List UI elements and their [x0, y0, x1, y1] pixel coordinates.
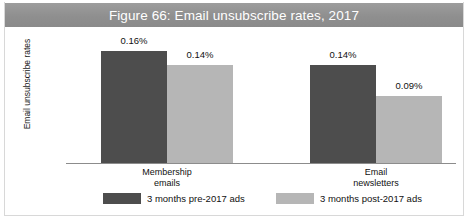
category-line-2: newsletters [310, 178, 442, 189]
bar-membership-pre [101, 51, 167, 163]
x-axis-category-membership-emails: Membership emails [101, 167, 233, 189]
chart-plot-area: Email unsubscribe rates 0.16% 0.14% Memb… [0, 27, 469, 187]
bar-newsletters-pre [310, 65, 376, 163]
figure-border-bottom [4, 215, 464, 216]
y-axis-label: Email unsubscribe rates [22, 24, 32, 144]
bar-value-newsletters-pre: 0.14% [310, 49, 376, 60]
bar-value-membership-post: 0.14% [167, 49, 233, 60]
category-line-1: Membership [101, 167, 233, 178]
chart-legend: 3 months pre-2017 ads 3 months post-2017… [0, 192, 469, 208]
x-axis-line [66, 163, 456, 164]
bar-newsletters-post [376, 96, 442, 163]
figure-title: Figure 66: Email unsubscribe rates, 2017 [109, 8, 359, 23]
legend-label-pre-2017: 3 months pre-2017 ads [147, 193, 245, 204]
legend-swatch-icon-pre-2017 [103, 193, 141, 204]
legend-swatch-icon-post-2017 [276, 193, 314, 204]
figure-container: Figure 66: Email unsubscribe rates, 2017… [0, 0, 469, 220]
legend-item-post-2017: 3 months post-2017 ads [276, 193, 422, 204]
legend-item-pre-2017: 3 months pre-2017 ads [103, 193, 245, 204]
bar-membership-post [167, 65, 233, 163]
figure-title-bar: Figure 66: Email unsubscribe rates, 2017 [5, 3, 463, 27]
bar-value-membership-pre: 0.16% [101, 35, 167, 46]
legend-label-post-2017: 3 months post-2017 ads [320, 193, 422, 204]
category-line-2: emails [101, 178, 233, 189]
category-line-1: Email [310, 167, 442, 178]
bar-value-newsletters-post: 0.09% [376, 80, 442, 91]
x-axis-category-email-newsletters: Email newsletters [310, 167, 442, 189]
